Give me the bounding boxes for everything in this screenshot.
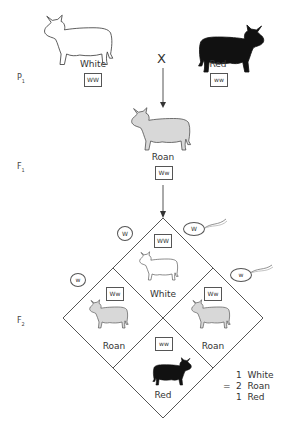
gamete-egg-bottom: w xyxy=(70,273,86,287)
punnett-bottom-genotype: ww xyxy=(155,337,173,351)
ratio-line-roan: 2 Roan xyxy=(236,381,270,392)
punnett-white-cow-icon xyxy=(140,252,178,280)
punnett-bottom-phenotype: Red xyxy=(148,390,178,400)
ratio-line-red: 1 Red xyxy=(236,392,265,403)
parent-right-phenotype: Red xyxy=(203,59,233,69)
parent-left-phenotype: White xyxy=(78,59,108,69)
parent-right-genotype: ww xyxy=(210,73,228,87)
punnett-top-phenotype: White xyxy=(146,289,180,299)
roan-cow-icon xyxy=(132,108,191,150)
parent-left-genotype: WW xyxy=(84,73,102,87)
punnett-right-genotype: Ww xyxy=(204,287,222,301)
punnett-left-genotype: Ww xyxy=(106,287,124,301)
punnett-red-cow-icon xyxy=(153,358,191,385)
punnett-left-phenotype: Roan xyxy=(99,341,129,351)
gamete-egg-top: W xyxy=(117,226,133,241)
diagram-graphics xyxy=(0,0,283,421)
punnett-top-genotype: WW xyxy=(154,234,172,248)
cross-symbol: X xyxy=(157,51,166,66)
ratio-line-white: 1 White xyxy=(236,370,274,381)
f1-phenotype: Roan xyxy=(148,152,178,162)
punnett-roan-cow-left-icon xyxy=(90,300,128,328)
f1-genotype: Ww xyxy=(155,166,173,180)
ratio-equals: = xyxy=(223,381,231,392)
white-cow-icon xyxy=(45,15,113,64)
punnett-right-phenotype: Roan xyxy=(198,341,228,351)
generation-label-p1: P1 xyxy=(17,73,25,84)
gamete-sperm-bottom: w xyxy=(230,268,252,282)
generation-label-f2: F2 xyxy=(17,316,25,327)
gamete-sperm-top: W xyxy=(183,222,205,236)
punnett-roan-cow-right-icon xyxy=(192,300,230,328)
generation-label-f1: F1 xyxy=(17,162,25,173)
